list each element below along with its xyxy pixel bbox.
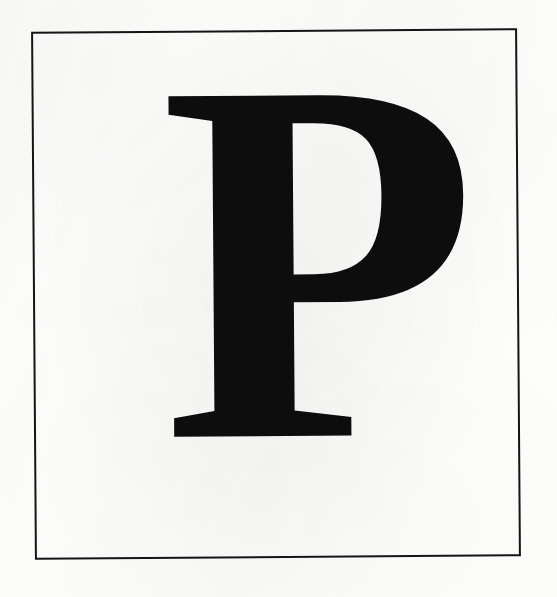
letter-glyph-text: P bbox=[159, 28, 481, 549]
scanned-page: P bbox=[0, 0, 557, 597]
glyph-stage: P bbox=[31, 28, 521, 560]
capital-letter-p-glyph: P bbox=[31, 28, 521, 560]
